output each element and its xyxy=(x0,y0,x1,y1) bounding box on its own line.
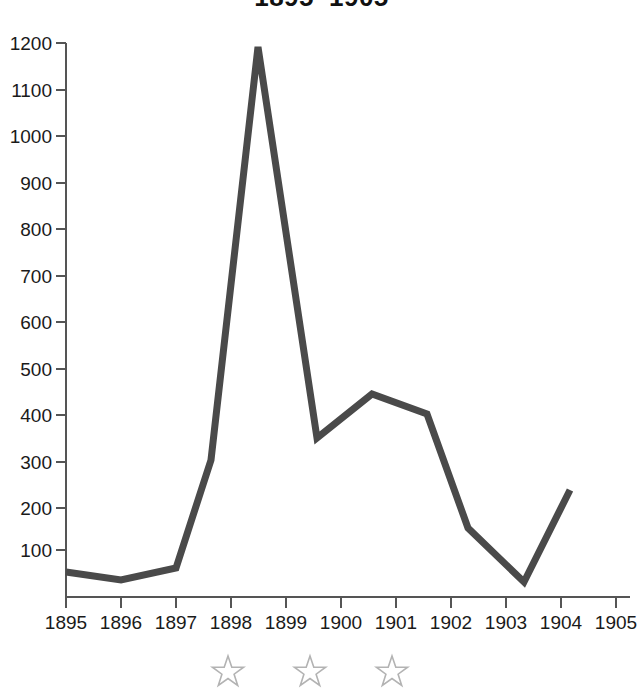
x-axis-ticks xyxy=(66,597,616,608)
chart-canvas xyxy=(0,0,643,700)
x-tick-label: 1895 xyxy=(36,613,96,632)
y-tick-label: 1000 xyxy=(0,127,52,146)
x-tick-label: 1899 xyxy=(256,613,316,632)
x-tick-label: 1903 xyxy=(476,613,536,632)
y-tick-label: 800 xyxy=(0,220,52,239)
y-tick-label: 300 xyxy=(0,453,52,472)
y-tick-label: 700 xyxy=(0,267,52,286)
y-tick-label: 400 xyxy=(0,406,52,425)
star-annotation-group xyxy=(212,656,407,686)
data-line-series-1 xyxy=(66,47,570,582)
star-icon xyxy=(294,656,325,686)
y-tick-label: 900 xyxy=(0,174,52,193)
x-tick-label: 1904 xyxy=(531,613,591,632)
x-tick-label: 1901 xyxy=(366,613,426,632)
plot-area: 1200 1100 1000 900 800 700 600 500 400 3… xyxy=(0,0,643,700)
chart-figure: 1895–1905 xyxy=(0,0,643,700)
y-tick-label: 600 xyxy=(0,313,52,332)
y-tick-label: 1100 xyxy=(0,81,52,100)
x-tick-label: 1900 xyxy=(311,613,371,632)
star-icon xyxy=(376,656,407,686)
y-tick-label: 100 xyxy=(0,541,52,560)
x-tick-label: 1902 xyxy=(421,613,481,632)
y-axis-ticks xyxy=(56,43,66,550)
y-tick-label: 1200 xyxy=(0,34,52,53)
x-tick-label: 1897 xyxy=(146,613,206,632)
star-icon xyxy=(212,656,243,686)
x-tick-label: 1898 xyxy=(201,613,261,632)
y-tick-label: 200 xyxy=(0,499,52,518)
y-tick-label: 500 xyxy=(0,360,52,379)
x-tick-label: 1905 xyxy=(586,613,643,632)
x-tick-label: 1896 xyxy=(91,613,151,632)
